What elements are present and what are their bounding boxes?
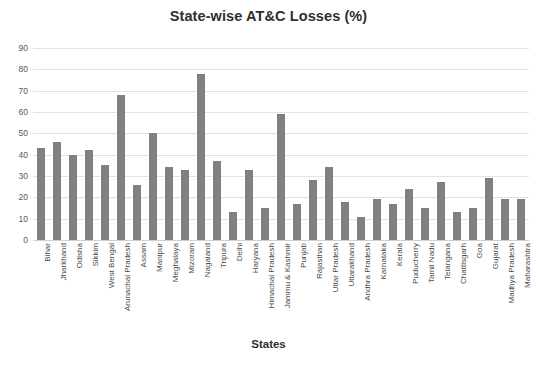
x-tick-label: Gujarat (492, 243, 500, 269)
bar[interactable] (85, 150, 93, 240)
chart-title: State-wise AT&C Losses (%) (0, 8, 537, 24)
y-tick-label: 80 (19, 64, 28, 74)
bar[interactable] (341, 202, 349, 240)
x-tick-label: Karnataka (380, 243, 388, 279)
x-tick-label: Bihar (44, 243, 52, 262)
x-tick-label: Uttarakhand (348, 243, 356, 287)
bar[interactable] (373, 199, 381, 240)
x-tick-label: Rajasthan (316, 243, 324, 279)
bar[interactable] (245, 170, 253, 240)
bar[interactable] (197, 74, 205, 240)
x-tick-label: Haryana (252, 243, 260, 273)
bar[interactable] (133, 185, 141, 240)
x-tick-label: Maharashtra (524, 243, 532, 288)
x-axis-title: States (0, 338, 537, 350)
bar[interactable] (229, 212, 237, 240)
y-tick-label: 20 (19, 192, 28, 202)
bar[interactable] (101, 165, 109, 240)
bar[interactable] (453, 212, 461, 240)
x-tick-label: Jammu & Kashmir (284, 243, 292, 308)
x-tick-label: Chattisgarh (460, 243, 468, 284)
bar[interactable] (357, 217, 365, 240)
y-tick-label: 50 (19, 128, 28, 138)
x-tick-label: Andhra Pradesh (364, 243, 372, 301)
bar[interactable] (69, 155, 77, 240)
bar[interactable] (469, 208, 477, 240)
bar[interactable] (213, 161, 221, 240)
x-tick-label: Puducherry (412, 243, 420, 284)
bar[interactable] (421, 208, 429, 240)
bar[interactable] (165, 167, 173, 240)
x-tick-label: Odisha (76, 243, 84, 268)
bar[interactable] (309, 180, 317, 240)
bar-chart: State-wise AT&C Losses (%) 0102030405060… (0, 0, 537, 369)
bar[interactable] (149, 133, 157, 240)
y-tick-label: 40 (19, 150, 28, 160)
x-tick-label: Mizoram (188, 243, 196, 274)
bar[interactable] (37, 148, 45, 240)
bar[interactable] (325, 167, 333, 240)
x-tick-label: Meghalaya (172, 243, 180, 282)
x-tick-label: West Bengal (108, 243, 116, 288)
bar[interactable] (261, 208, 269, 240)
x-tick-label: Arunachal Pradesh (124, 243, 132, 311)
bar[interactable] (405, 189, 413, 240)
bar[interactable] (437, 182, 445, 240)
y-tick-label: 60 (19, 107, 28, 117)
x-tick-label: Goa (476, 243, 484, 258)
x-axis-tick-labels: BiharJharkhandOdishaSikkimWest BengalAru… (33, 241, 529, 337)
y-axis-tick-labels: 0102030405060708090 (0, 48, 33, 240)
x-tick-label: Assam (140, 243, 148, 267)
x-tick-label: Tripura (220, 243, 228, 268)
y-tick-label: 10 (19, 214, 28, 224)
x-tick-label: Delhi (236, 243, 244, 261)
bar[interactable] (485, 178, 493, 240)
x-tick-label: Himachal Pradesh (268, 243, 276, 308)
bars-container (33, 48, 529, 240)
bar[interactable] (293, 204, 301, 240)
bar[interactable] (277, 114, 285, 240)
bar[interactable] (501, 199, 509, 240)
x-tick-label: Uttar Pradesh (332, 243, 340, 292)
bar[interactable] (517, 199, 525, 240)
bar[interactable] (53, 142, 61, 240)
x-tick-label: Sikkim (92, 243, 100, 267)
x-tick-label: Jharkhand (60, 243, 68, 280)
y-tick-label: 30 (19, 171, 28, 181)
x-tick-label: Manipur (156, 243, 164, 272)
x-tick-label: Nagaland (204, 243, 212, 277)
x-tick-label: Tamil Nadu (428, 243, 436, 283)
x-tick-label: Madhya Pradesh (508, 243, 516, 303)
bar[interactable] (117, 95, 125, 240)
y-tick-label: 0 (23, 235, 28, 245)
x-tick-label: Punjab (300, 243, 308, 268)
x-tick-label: Kerala (396, 243, 404, 266)
y-tick-label: 90 (19, 43, 28, 53)
y-tick-label: 70 (19, 86, 28, 96)
bar[interactable] (389, 204, 397, 240)
x-tick-label: Telangana (444, 243, 452, 280)
bar[interactable] (181, 170, 189, 240)
